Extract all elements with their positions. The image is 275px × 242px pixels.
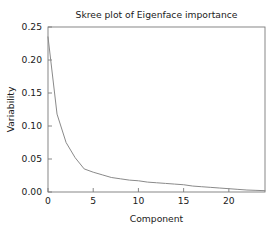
- x-tick-label: 0: [45, 195, 51, 206]
- chart-figure: Skree plot of Eigenface importance 0.000…: [0, 0, 275, 242]
- y-tick-label: 0.10: [22, 120, 43, 131]
- y-axis-title: Variability: [5, 86, 16, 132]
- x-tick-label: 5: [90, 195, 96, 206]
- y-tick-label: 0.05: [22, 153, 43, 164]
- x-tick-label: 10: [133, 195, 145, 206]
- x-axis-title: Component: [130, 213, 184, 224]
- x-tick-label: 15: [178, 195, 190, 206]
- y-tick-label: 0.00: [22, 186, 43, 197]
- y-tick-label: 0.25: [22, 21, 43, 32]
- chart-title: Skree plot of Eigenface importance: [76, 9, 238, 20]
- x-tick-label: 20: [223, 195, 235, 206]
- scree-plot-svg: Skree plot of Eigenface importance 0.000…: [0, 0, 275, 242]
- y-tick-label: 0.15: [22, 87, 43, 98]
- y-tick-label: 0.20: [22, 54, 43, 65]
